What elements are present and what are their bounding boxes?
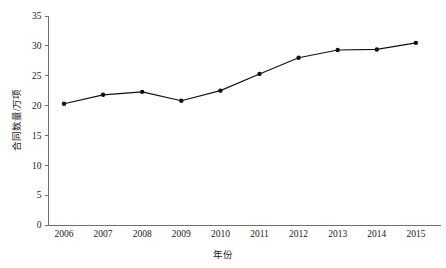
data-point bbox=[296, 56, 300, 60]
y-tick-label: 25 bbox=[32, 71, 42, 81]
data-point bbox=[218, 88, 222, 92]
data-point bbox=[62, 102, 66, 106]
x-tick-label: 2006 bbox=[55, 229, 74, 239]
data-point bbox=[140, 90, 144, 94]
chart-background bbox=[0, 0, 446, 268]
chart-figure: 05101520253035 2006200720082009201020112… bbox=[0, 0, 446, 268]
data-point bbox=[179, 99, 183, 103]
y-tick-label: 0 bbox=[37, 220, 42, 230]
data-point bbox=[336, 48, 340, 52]
y-axis-title: 合同数量/万项 bbox=[11, 89, 22, 152]
x-tick-label: 2013 bbox=[328, 229, 347, 239]
y-tick-label: 35 bbox=[32, 11, 42, 21]
x-tick-label: 2009 bbox=[172, 229, 191, 239]
y-tick-label: 10 bbox=[32, 161, 42, 171]
y-tick-label: 20 bbox=[32, 101, 42, 111]
x-tick-label: 2011 bbox=[250, 229, 269, 239]
x-tick-label: 2007 bbox=[94, 229, 113, 239]
y-tick-label: 30 bbox=[32, 41, 42, 51]
x-tick-label: 2008 bbox=[133, 229, 152, 239]
x-tick-label: 2010 bbox=[211, 229, 230, 239]
data-point bbox=[257, 72, 261, 76]
x-tick-label: 2014 bbox=[367, 229, 386, 239]
data-point bbox=[375, 47, 379, 51]
x-tick-label: 2015 bbox=[406, 229, 425, 239]
x-tick-label: 2012 bbox=[289, 229, 308, 239]
data-point bbox=[414, 41, 418, 45]
x-axis-title: 年份 bbox=[213, 249, 233, 260]
y-tick-label: 5 bbox=[37, 190, 42, 200]
data-point bbox=[101, 93, 105, 97]
y-tick-label: 15 bbox=[32, 131, 42, 141]
line-chart: 05101520253035 2006200720082009201020112… bbox=[0, 0, 446, 268]
